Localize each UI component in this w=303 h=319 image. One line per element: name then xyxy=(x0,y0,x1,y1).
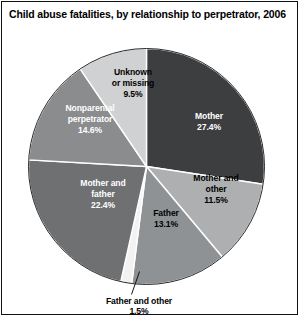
slice-label-mother-and-father-line1: Mother and xyxy=(80,178,125,188)
slice-label-nonparental-line1: Nonparental xyxy=(65,103,114,113)
slice-label-mother-and-father-line2: father xyxy=(91,189,115,199)
slice-label-unknown-line2: or missing xyxy=(112,78,154,88)
slice-callout-value-father-and-other: 1.5% xyxy=(129,306,149,316)
slice-label-mother-and-other-line1: Mother and xyxy=(193,173,238,183)
pie-chart-area: Father and other 1.5% Mother 27.4% Mothe… xyxy=(0,26,299,316)
chart-title: Child abuse fatalities, by relationship … xyxy=(9,8,295,21)
slice-value-father: 13.1% xyxy=(154,219,178,229)
slice-value-mother-and-other: 11.5% xyxy=(204,195,228,205)
slice-label-mother-and-other-line2: other xyxy=(206,184,228,194)
slice-label-mother: Mother xyxy=(195,111,224,121)
slice-value-nonparental: 14.6% xyxy=(78,125,102,135)
slice-label-nonparental-line2: perpetrator xyxy=(68,114,113,124)
slice-label-father: Father xyxy=(153,208,179,218)
slice-callout-label-father-and-other: Father and other xyxy=(106,296,173,306)
slice-value-mother-and-father: 22.4% xyxy=(91,200,115,210)
pie-chart-svg: Father and other 1.5% Mother 27.4% Mothe… xyxy=(0,26,299,316)
chart-figure: Child abuse fatalities, by relationship … xyxy=(0,0,303,319)
slice-value-unknown: 9.5% xyxy=(123,89,143,99)
slice-value-mother: 27.4% xyxy=(197,122,221,132)
slice-label-unknown-line1: Unknown xyxy=(114,67,152,77)
